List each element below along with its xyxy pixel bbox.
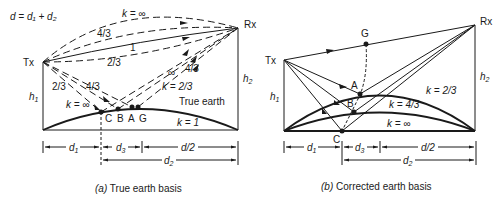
label-b: B (117, 113, 124, 124)
point-b (352, 110, 357, 115)
point-c (340, 129, 345, 134)
diagram-canvas: d = d₁ + d₂ Tx Rx h1 h2 k = ∞ 4/3 (0, 0, 502, 208)
label-23-down: 2/3 (52, 81, 66, 92)
caption-a: (a) True earth basis (95, 183, 182, 194)
dim-half-label: d/2 (181, 142, 195, 153)
true-earth-label: True earth (179, 96, 225, 107)
h2-label: h2 (243, 73, 253, 85)
point-g (136, 105, 141, 110)
label-a: A (128, 113, 135, 124)
arrowhead (182, 37, 190, 41)
arrowhead (103, 96, 110, 102)
label-g: G (361, 28, 369, 39)
k23-label: k = 2/3 (426, 85, 457, 96)
panel-b-corrected-earth: Tx Rx h1 h2 G A B C k = 2/3 k = 4/3 k = … (265, 16, 492, 192)
dim-d2-label: d2 (403, 155, 413, 167)
label-43-up: 4/3 (185, 63, 199, 74)
arrowhead (182, 49, 189, 56)
label-k-inf-top: k = ∞ (122, 8, 146, 19)
equation-label: d = d₁ + d₂ (10, 11, 57, 22)
dim-d3-label: d3 (355, 142, 365, 154)
label-g: G (139, 113, 147, 124)
ray-c-rx (342, 25, 475, 131)
h2-label: h2 (480, 71, 490, 83)
label-inf-up: ∞ (168, 67, 175, 78)
arrowhead (339, 84, 347, 89)
arrowhead (94, 104, 100, 110)
arrowhead (180, 21, 188, 25)
k43-earth-arc (284, 113, 475, 132)
h1-label: h1 (29, 91, 39, 103)
k1-label: k = 1 (177, 117, 199, 128)
dim-d1-label: d1 (69, 142, 79, 154)
ray-to-a (284, 60, 360, 94)
label-c: C (105, 113, 112, 124)
caption-b: (b) Corrected earth basis (321, 181, 432, 192)
label-a: A (351, 80, 358, 91)
ray-to-c (284, 60, 342, 131)
dim-d1-label: d1 (307, 142, 317, 154)
panel-a-true-earth: d = d₁ + d₂ Tx Rx h1 h2 k = ∞ 4/3 (10, 8, 256, 194)
rx-label: Rx (480, 16, 492, 27)
label-c: C (333, 134, 340, 145)
dim-d3-label: d3 (116, 142, 126, 154)
rx-label: Rx (244, 19, 256, 30)
point-b (116, 107, 121, 112)
k43-label: k = 4/3 (389, 99, 420, 110)
label-k-inf-down: k = ∞ (66, 99, 90, 110)
dim-d2-label: d2 (164, 155, 174, 167)
label-23-top: 2/3 (107, 57, 121, 68)
ray-43-top (43, 27, 238, 62)
label-b: B (347, 98, 354, 109)
label-43-down: 4/3 (86, 81, 100, 92)
label-1: 1 (130, 42, 136, 53)
tx-label: Tx (23, 57, 34, 68)
kinf-label: k = ∞ (387, 118, 411, 129)
point-a (130, 105, 135, 110)
label-43-top: 4/3 (97, 28, 111, 39)
dim-half-label: d/2 (421, 142, 435, 153)
label-k23-up: k = 2/3 (162, 81, 193, 92)
point-a (358, 92, 363, 97)
tx-label: Tx (265, 55, 276, 66)
h1-label: h1 (270, 91, 280, 103)
